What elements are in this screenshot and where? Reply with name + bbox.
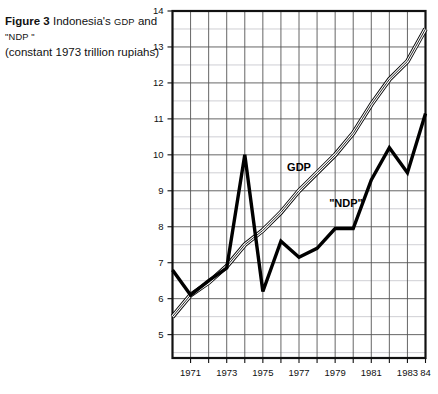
y-axis-tick-label: 10 (153, 149, 164, 160)
line-chart: 567891011121314 197119731975197719791981… (0, 0, 438, 394)
y-axis-tick-label: 14 (153, 5, 164, 16)
x-axis-tick-label: 1979 (325, 367, 346, 378)
x-axis-labels: 197119731975197719791981198384 (180, 367, 431, 378)
x-axis-tick-label: 1977 (288, 367, 309, 378)
series-label: "NDP" (329, 197, 363, 209)
x-axis-tick-label: 84 (420, 367, 431, 378)
y-axis-tick-label: 9 (158, 185, 163, 196)
major-gridlines (173, 11, 426, 358)
y-axis-tick-label: 12 (153, 77, 164, 88)
figure-container: Figure 3 Indonesia's GDP and "NDP " (con… (0, 0, 438, 394)
y-axis-tick-label: 13 (153, 41, 164, 52)
y-axis-tick-label: 11 (154, 113, 164, 124)
y-axis-labels: 567891011121314 (153, 5, 164, 340)
y-axis-tick-label: 7 (158, 257, 163, 268)
x-axis-tick-label: 1971 (180, 367, 201, 378)
series-label: GDP (287, 161, 311, 173)
x-axis-tick-label: 1983 (397, 367, 418, 378)
x-axis-tick-label: 1973 (216, 367, 237, 378)
x-axis-tick-label: 1981 (361, 367, 382, 378)
y-axis-tick-label: 8 (158, 221, 163, 232)
y-axis-tick-label: 6 (158, 293, 163, 304)
y-axis-tick-label: 5 (158, 329, 163, 340)
x-axis-tick-label: 1975 (252, 367, 273, 378)
